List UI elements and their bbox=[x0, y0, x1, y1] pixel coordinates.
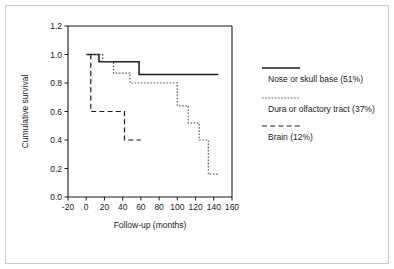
y-axis-title: Cumulative survival bbox=[20, 75, 30, 149]
x-tick-label: 80 bbox=[154, 202, 164, 212]
series-line-3 bbox=[91, 55, 141, 141]
x-tick-label: -20 bbox=[62, 202, 75, 212]
y-tick-label: 0.0 bbox=[50, 192, 62, 202]
series-line-2 bbox=[86, 55, 219, 175]
x-tick-label: 60 bbox=[136, 202, 146, 212]
y-tick-label: 0.8 bbox=[50, 78, 62, 88]
figure-container: 0.00.20.40.60.81.01.2-200204060801001201… bbox=[0, 0, 394, 269]
legend-label-1: Nose or skull base (51%) bbox=[268, 74, 363, 84]
x-tick-label: 120 bbox=[188, 202, 202, 212]
y-tick-label: 1.0 bbox=[50, 50, 62, 60]
x-tick-label: 140 bbox=[207, 202, 221, 212]
x-tick-label: 20 bbox=[100, 202, 110, 212]
legend-label-3: Brain (12%) bbox=[268, 132, 313, 142]
x-tick-label: 0 bbox=[84, 202, 89, 212]
y-tick-label: 0.6 bbox=[50, 107, 62, 117]
legend-label-2: Dura or olfactory tract (37%) bbox=[268, 104, 375, 114]
series-line-1 bbox=[86, 55, 218, 75]
kaplan-meier-chart: 0.00.20.40.60.81.01.2-200204060801001201… bbox=[0, 0, 394, 269]
x-tick-label: 100 bbox=[170, 202, 184, 212]
survival-curve-plot: 0.00.20.40.60.81.01.2-200204060801001201… bbox=[0, 0, 394, 269]
x-tick-label: 40 bbox=[118, 202, 128, 212]
x-tick-label: 160 bbox=[225, 202, 239, 212]
y-tick-label: 0.4 bbox=[50, 135, 62, 145]
x-axis-title: Follow-up (months) bbox=[114, 220, 187, 230]
y-tick-label: 1.2 bbox=[50, 21, 62, 31]
y-tick-label: 0.2 bbox=[50, 164, 62, 174]
